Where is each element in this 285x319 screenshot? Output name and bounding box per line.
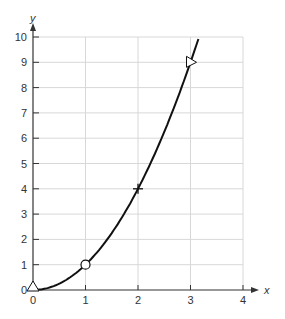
y-tick-label: 7 <box>21 107 27 119</box>
y-tick-label: 3 <box>21 208 27 220</box>
x-tick-label: 2 <box>135 294 141 306</box>
y-tick-label: 2 <box>21 233 27 245</box>
y-axis-label: y <box>29 12 37 24</box>
y-axis-arrow-icon <box>30 23 36 31</box>
circle-marker-icon <box>81 260 90 269</box>
x-axis-label: x <box>263 284 270 296</box>
y-tick-label: 6 <box>21 132 27 144</box>
y-tick-label: 5 <box>21 158 27 170</box>
data-curve <box>33 39 198 290</box>
axes <box>30 23 259 293</box>
y-tick-label: 10 <box>15 31 27 43</box>
x-tick-label: 4 <box>240 294 246 306</box>
x-tick-label: 3 <box>187 294 193 306</box>
x-axis-arrow-icon <box>251 287 259 293</box>
y-tick-label: 9 <box>21 56 27 68</box>
x-tick-label: 0 <box>30 294 36 306</box>
y-tick-label: 8 <box>21 82 27 94</box>
y-tick-label: 4 <box>21 183 27 195</box>
y-tick-label: 0 <box>21 284 27 296</box>
chart-container: 01234012345678910 x y <box>0 0 285 319</box>
data-markers <box>27 56 197 291</box>
x-tick-label: 1 <box>82 294 88 306</box>
triangle-up-marker-icon <box>27 281 39 291</box>
chart-svg: 01234012345678910 x y <box>0 0 285 319</box>
grid-lines <box>33 37 243 290</box>
y-tick-label: 1 <box>21 259 27 271</box>
